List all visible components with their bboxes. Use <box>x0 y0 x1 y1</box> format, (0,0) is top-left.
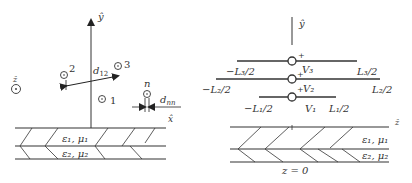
svg-text:2: 2 <box>69 63 75 74</box>
left-layer1-label: ε₁, μ₁ <box>62 133 88 144</box>
x-axis-label: x̂ <box>168 114 173 124</box>
svg-text:1: 1 <box>110 95 116 106</box>
svg-text:+: + <box>297 85 304 94</box>
wire3-right-label: L₃/2 <box>356 66 377 77</box>
conductor-1: 1 <box>99 95 117 106</box>
svg-text:3: 3 <box>124 59 130 70</box>
figure: ŷ ẑ 2 3 1 d12 <box>0 0 412 183</box>
svg-text:n: n <box>144 78 150 89</box>
wire2-right-label: L₂/2 <box>371 84 392 95</box>
left-panel: ŷ ẑ 2 3 1 d12 <box>12 11 182 159</box>
svg-text:+: + <box>298 51 305 60</box>
right-z-axis-label: ẑ <box>394 118 400 127</box>
y-axis-arrow-icon <box>87 18 95 26</box>
conductor-3: 3 <box>115 59 131 70</box>
wire-1: V₁ −L₁/2 L₁/2 <box>244 93 349 114</box>
right-layer2-label: ε₂, μ₂ <box>362 150 388 161</box>
right-substrate: ε₁, μ₁ ε₂, μ₂ z = 0 <box>230 125 389 176</box>
z-out-of-page-icon <box>12 85 21 94</box>
z-zero-label: z = 0 <box>281 165 309 176</box>
conductor-n: n dnn <box>132 78 181 112</box>
right-panel: ŷ + V₃ −L₃/2 L₃/2 + V₂ + −L₂/2 L₂/2 V₁ −… <box>202 17 400 176</box>
left-substrate: ε₁, μ₁ ε₂, μ₂ <box>15 128 166 159</box>
left-layer2-label: ε₂, μ₂ <box>62 148 88 159</box>
y-axis-label: ŷ <box>97 11 104 22</box>
wire2-left-label: −L₂/2 <box>202 84 231 95</box>
svg-text:+: + <box>297 70 304 79</box>
right-layer1-label: ε₁, μ₁ <box>362 134 388 145</box>
dnn-label: dnn <box>160 94 176 107</box>
wire3-left-label: −L₃/2 <box>226 66 255 77</box>
v2-label: V₂ <box>303 83 314 94</box>
v1-label: V₁ <box>305 103 316 114</box>
z-axis-label: ẑ <box>12 75 18 84</box>
right-y-axis-label: ŷ <box>298 18 305 29</box>
conductor-2: 2 <box>61 63 76 79</box>
wire1-right-label: L₁/2 <box>328 103 349 114</box>
wire1-left-label: −L₁/2 <box>244 103 273 114</box>
d12-label: d12 <box>93 65 108 78</box>
